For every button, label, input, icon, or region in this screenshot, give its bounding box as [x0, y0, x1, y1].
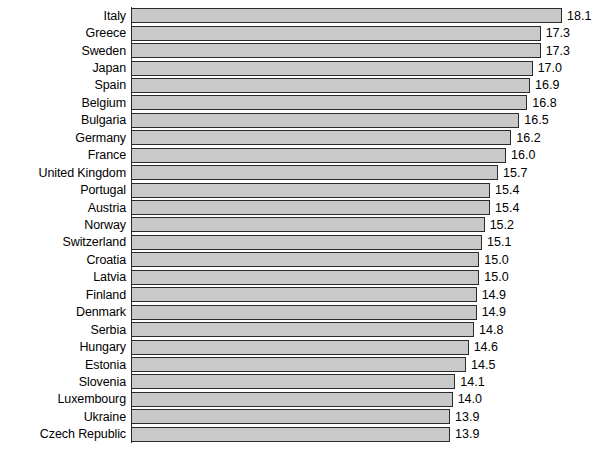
- bar-track: [131, 148, 506, 163]
- bar: [131, 113, 519, 128]
- bar-track: [131, 357, 466, 372]
- bar-track: [131, 305, 477, 320]
- bar-track: [131, 78, 530, 93]
- bar: [131, 200, 490, 215]
- bar-track: [131, 287, 477, 302]
- value-label: 16.9: [530, 79, 559, 92]
- value-label: 18.1: [562, 9, 591, 22]
- bar: [131, 252, 479, 267]
- value-label: 15.4: [490, 201, 519, 214]
- bar-track: [131, 392, 453, 407]
- category-label: Denmark: [76, 306, 131, 319]
- value-label: 15.0: [479, 271, 508, 284]
- bar-row: Denmark14.9: [0, 303, 608, 320]
- bar-row: Greece17.3: [0, 24, 608, 41]
- bar-track: [131, 235, 482, 250]
- bar: [131, 78, 530, 93]
- bar-row: Luxembourg14.0: [0, 391, 608, 408]
- bar-row: Switzerland15.1: [0, 234, 608, 251]
- bar-row: Serbia14.8: [0, 321, 608, 338]
- category-label: Latvia: [93, 271, 131, 284]
- y-axis-line: [131, 7, 132, 443]
- bar: [131, 43, 541, 58]
- bar: [131, 61, 533, 76]
- value-label: 17.0: [533, 62, 562, 75]
- bar-row: Sweden17.3: [0, 42, 608, 59]
- category-label: Spain: [95, 79, 131, 92]
- category-label: Finland: [86, 288, 131, 301]
- bar-row: Austria15.4: [0, 199, 608, 216]
- bar-row: Hungary14.6: [0, 338, 608, 355]
- value-label: 14.8: [474, 323, 503, 336]
- bar: [131, 270, 479, 285]
- bar: [131, 322, 474, 337]
- value-label: 14.5: [466, 358, 495, 371]
- bar: [131, 8, 562, 23]
- bar: [131, 165, 498, 180]
- bar-row: Portugal15.4: [0, 181, 608, 198]
- bar-row: Belgium16.8: [0, 94, 608, 111]
- bar-track: [131, 427, 450, 442]
- category-label: Hungary: [79, 341, 131, 354]
- category-label: Estonia: [85, 358, 131, 371]
- category-label: Sweden: [81, 44, 131, 57]
- bar-row: Croatia15.0: [0, 251, 608, 268]
- category-label: Croatia: [86, 253, 131, 266]
- bar-row: Germany16.2: [0, 129, 608, 146]
- bar: [131, 357, 466, 372]
- bar: [131, 374, 455, 389]
- category-label: Switzerland: [62, 236, 131, 249]
- bar: [131, 392, 453, 407]
- category-label: Luxembourg: [58, 393, 132, 406]
- value-label: 15.7: [498, 166, 527, 179]
- bar-track: [131, 409, 450, 424]
- category-label: Germany: [75, 131, 131, 144]
- bar-track: [131, 252, 479, 267]
- bar-track: [131, 61, 533, 76]
- value-label: 14.6: [469, 341, 498, 354]
- value-label: 15.0: [479, 253, 508, 266]
- category-label: Greece: [86, 27, 131, 40]
- value-label: 14.0: [453, 393, 482, 406]
- bar: [131, 409, 450, 424]
- category-label: Italy: [104, 9, 131, 22]
- bar-row: Bulgaria16.5: [0, 112, 608, 129]
- bar-track: [131, 270, 479, 285]
- value-label: 13.9: [450, 410, 479, 423]
- bar-track: [131, 8, 562, 23]
- category-label: Japan: [92, 62, 131, 75]
- value-label: 15.2: [485, 218, 514, 231]
- value-label: 15.4: [490, 184, 519, 197]
- bar-row: Slovenia14.1: [0, 373, 608, 390]
- value-label: 16.0: [506, 149, 535, 162]
- bar-track: [131, 217, 485, 232]
- bar-track: [131, 374, 455, 389]
- bar-track: [131, 130, 511, 145]
- bar: [131, 95, 527, 110]
- category-label: Belgium: [82, 96, 131, 109]
- bottom-clipped-artifact: [0, 452, 608, 459]
- plot-area: Italy18.1Greece17.3Sweden17.3Japan17.0Sp…: [0, 0, 608, 459]
- bar-row: Spain16.9: [0, 77, 608, 94]
- value-label: 14.9: [477, 288, 506, 301]
- bar-track: [131, 200, 490, 215]
- bar-track: [131, 113, 519, 128]
- category-label: France: [88, 149, 131, 162]
- bar: [131, 183, 490, 198]
- bar-row: Latvia15.0: [0, 269, 608, 286]
- bar: [131, 287, 477, 302]
- bar: [131, 130, 511, 145]
- value-label: 17.3: [541, 27, 570, 40]
- bar-track: [131, 95, 527, 110]
- category-label: Bulgaria: [81, 114, 131, 127]
- bar-row: Italy18.1: [0, 7, 608, 24]
- bar-row: United Kingdom15.7: [0, 164, 608, 181]
- bar-track: [131, 183, 490, 198]
- bar-row: Estonia14.5: [0, 356, 608, 373]
- value-label: 16.2: [511, 131, 540, 144]
- bar: [131, 235, 482, 250]
- value-label: 15.1: [482, 236, 511, 249]
- value-label: 16.5: [519, 114, 548, 127]
- bar: [131, 427, 450, 442]
- bar-row: Japan17.0: [0, 59, 608, 76]
